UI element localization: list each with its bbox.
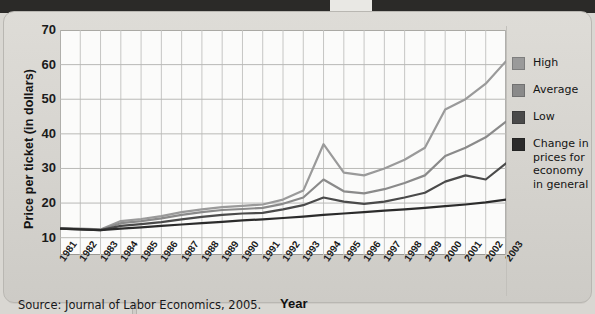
legend-item-label: Low bbox=[533, 110, 595, 124]
legend-item[interactable]: Change in prices for economy in general bbox=[512, 137, 595, 191]
legend-swatch bbox=[512, 57, 525, 70]
source-note: Source: Journal of Labor Economics, 2005… bbox=[18, 298, 261, 312]
y-axis-tick-label: 70 bbox=[26, 23, 56, 36]
legend-divider bbox=[506, 26, 507, 296]
y-axis-tick-label: 30 bbox=[26, 161, 56, 174]
plot-series-lines bbox=[60, 30, 506, 255]
legend-swatch bbox=[512, 84, 525, 97]
legend-item[interactable]: High bbox=[512, 56, 595, 71]
y-axis-tick-label: 40 bbox=[26, 127, 56, 140]
y-axis-tick-label: 60 bbox=[26, 58, 56, 71]
legend-swatch bbox=[512, 138, 525, 151]
legend-item-label: Average bbox=[533, 83, 595, 97]
y-axis-tick-label: 10 bbox=[26, 231, 56, 244]
chart-legend: HighAverageLowChange in prices for econo… bbox=[512, 56, 595, 203]
y-axis-tick-label: 50 bbox=[26, 92, 56, 105]
legend-swatch bbox=[512, 111, 525, 124]
x-axis-title: Year bbox=[280, 296, 307, 311]
legend-item[interactable]: Low bbox=[512, 110, 595, 125]
legend-item-label: Change in prices for economy in general bbox=[533, 137, 595, 191]
legend-item[interactable]: Average bbox=[512, 83, 595, 98]
x-axis-tick-labels: 1981198219831984198519861987198819891990… bbox=[60, 257, 512, 299]
y-axis-tick-labels: 10203040506070 bbox=[22, 12, 56, 255]
y-axis-tick-label: 20 bbox=[26, 196, 56, 209]
figure-page: Price per ticket (in dollars) 1020304050… bbox=[0, 0, 595, 314]
legend-item-label: High bbox=[533, 56, 595, 70]
figure-card: Price per ticket (in dollars) 1020304050… bbox=[3, 11, 592, 303]
plot-area bbox=[60, 30, 506, 255]
series-line bbox=[60, 122, 506, 230]
